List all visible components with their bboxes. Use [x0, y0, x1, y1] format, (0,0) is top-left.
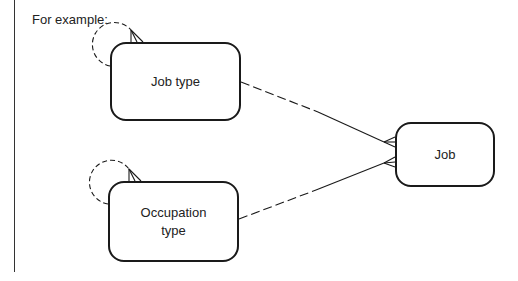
entity-job-type[interactable]: Job type [110, 42, 241, 121]
entity-label: Job type [151, 73, 200, 91]
rel-occupation-type-job-solid [316, 163, 384, 190]
crowsfoot-job-top [384, 137, 395, 147]
crowsfoot-job-bottom [384, 157, 395, 167]
entity-label: Job [435, 146, 456, 164]
crowsfoot-job-type-self [131, 30, 143, 42]
crowsfoot-occupation-type-self [129, 169, 141, 181]
rel-job-type-job-solid [318, 112, 384, 142]
entity-occupation-type[interactable]: Occupation type [108, 181, 239, 262]
rel-occupation-type-job-dashed [239, 190, 316, 219]
entity-job[interactable]: Job [395, 122, 495, 187]
rel-job-type-job-dashed [241, 82, 318, 112]
entity-label: Occupation type [141, 204, 207, 239]
